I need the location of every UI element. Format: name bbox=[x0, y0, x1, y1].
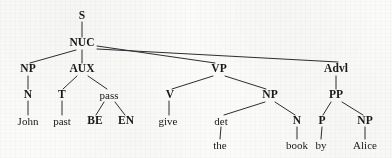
tree-node-layer: SNUCNPAUXVPAdvlNTpassVNPPPJohnpastBEENgi… bbox=[0, 0, 392, 158]
tree-node-pp: PP bbox=[329, 89, 343, 101]
tree-node-past: past bbox=[53, 116, 71, 127]
tree-node-alice: Alice bbox=[353, 140, 377, 151]
tree-node-np-agent: NP bbox=[357, 115, 373, 127]
tree-node-be: BE bbox=[87, 115, 103, 127]
tree-node-v: V bbox=[166, 89, 174, 101]
tree-node-give: give bbox=[159, 116, 178, 127]
tree-node-n-obj: N bbox=[293, 115, 301, 127]
tree-node-np-obj: NP bbox=[262, 89, 278, 101]
tree-node-p: P bbox=[318, 115, 325, 127]
syntax-tree-figure: SNUCNPAUXVPAdvlNTpassVNPPPJohnpastBEENgi… bbox=[0, 0, 392, 158]
tree-node-pass: pass bbox=[100, 90, 119, 101]
tree-node-vp: VP bbox=[211, 63, 227, 75]
tree-node-aux: AUX bbox=[69, 63, 94, 75]
tree-node-t: T bbox=[58, 89, 66, 101]
tree-node-nuc: NUC bbox=[69, 37, 94, 49]
tree-node-the: the bbox=[213, 140, 226, 151]
tree-node-n-subj: N bbox=[24, 89, 32, 101]
tree-node-s: S bbox=[79, 10, 86, 22]
tree-node-det: det bbox=[214, 116, 227, 127]
tree-node-book: book bbox=[286, 140, 308, 151]
tree-node-en: EN bbox=[118, 115, 134, 127]
tree-node-np-subj: NP bbox=[20, 63, 36, 75]
tree-node-by: by bbox=[316, 140, 327, 151]
tree-node-advl: Advl bbox=[324, 63, 348, 75]
tree-node-john: John bbox=[18, 116, 39, 127]
